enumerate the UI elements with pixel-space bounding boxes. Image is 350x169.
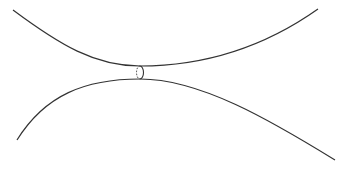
diagram-svg: [0, 0, 350, 169]
diagram-canvas: [0, 0, 350, 169]
upper-curve: [13, 9, 318, 66]
throat-ellipse-front: [140, 66, 144, 79]
lower-curve: [17, 79, 335, 160]
throat-ellipse-back: [137, 66, 141, 79]
